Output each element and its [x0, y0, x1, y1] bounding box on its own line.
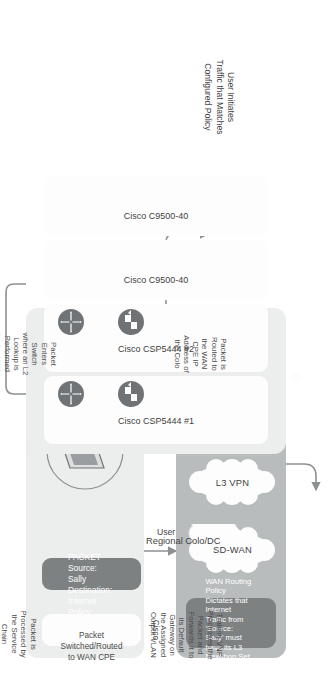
- policy-l3: Traffic from 'Source:: [205, 614, 257, 633]
- cloud-label-sd-wan: SD-WAN: [213, 545, 252, 556]
- cloud-label-l3-vpn: L3 VPN: [215, 477, 249, 488]
- colo-column-1-caption: Cisco CSP5444 #1: [118, 416, 194, 426]
- cloud-sd-wan: SD-WAN: [188, 524, 276, 576]
- packet-title: PACKET: [68, 552, 115, 563]
- router-icon[interactable]: [58, 381, 84, 407]
- colo-column-4-caption: Cisco C9500-40: [124, 210, 189, 220]
- wan-routing-policy-box: WAN Routing Policy Dictates that Interne…: [186, 598, 276, 648]
- colo-label: Regional Colo/DC: [146, 536, 220, 546]
- colo-column-2-caption: Cisco CSP5444 #2: [118, 344, 194, 354]
- router-icon[interactable]: [58, 309, 84, 335]
- colo-column-4[interactable]: Cisco C9500-40: [44, 176, 268, 236]
- packet-switched-note: Packet Switched/Routed to WAN CPE: [42, 614, 141, 646]
- packet-source: Source: Sally: [68, 563, 115, 585]
- policy-l5: Next-hop Set to the: [205, 652, 257, 671]
- diagram-canvas: User Initiates PACKET Source: Sally Dest…: [0, 0, 328, 686]
- packet-destination: Destination: Internet: [68, 585, 115, 607]
- switched-note-l1: Packet Switched/Routed: [61, 630, 123, 652]
- packet-box: PACKET Source: Sally Destination: Intern…: [42, 558, 141, 590]
- cloud-l3-vpn: L3 VPN: [188, 456, 276, 508]
- policy-l2: Dictates that Internet: [205, 595, 257, 614]
- firewall-icon[interactable]: [118, 309, 144, 335]
- colo-column-3[interactable]: Cisco C9500-40: [44, 240, 268, 300]
- colo-column-3-caption: Cisco C9500-40: [124, 274, 189, 284]
- policy-l6: Regional Colocation: [205, 671, 257, 686]
- firewall-icon[interactable]: [118, 381, 144, 407]
- policy-l4: Sally' must have its L3: [205, 633, 257, 652]
- switched-note-l2: to WAN CPE: [61, 652, 123, 663]
- switch-lookup-note-box: [292, 372, 300, 382]
- policy-l1: WAN Routing Policy: [205, 577, 257, 596]
